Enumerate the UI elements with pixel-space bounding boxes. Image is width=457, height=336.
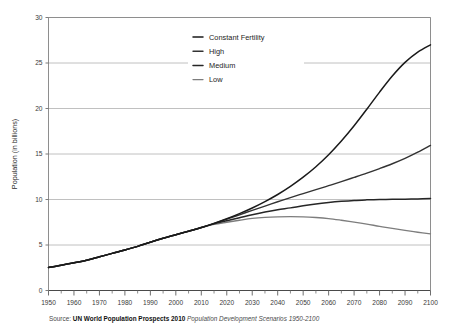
series-line [49,199,431,268]
chart-plot-area: 051015202530Population (in billions)1950… [0,0,457,336]
source-subtitle: Population Development Scenarios 1950-21… [185,315,319,322]
legend-item-label: Low [209,75,223,84]
chart-source-note: Source: UN World Population Prospects 20… [49,314,319,323]
x-axis-tick-label: 2010 [194,299,209,306]
x-axis-tick-label: 2050 [296,299,311,306]
x-axis-tick-label: 1990 [143,299,158,306]
legend-item-label: Medium [209,61,235,70]
y-axis-tick-label: 15 [35,150,43,157]
series-line [49,145,431,267]
population-projection-chart: 051015202530Population (in billions)1950… [0,0,457,336]
x-axis-tick-label: 2060 [321,299,336,306]
x-axis-tick-label: 2090 [398,299,413,306]
x-axis-tick-label: 2020 [219,299,234,306]
series-line [49,217,431,268]
x-axis-tick-label: 1970 [92,299,107,306]
x-axis-tick-label: 2030 [245,299,260,306]
x-axis-tick-label: 2070 [347,299,362,306]
y-axis-tick-label: 25 [35,59,43,66]
legend-item-label: High [209,47,224,56]
chart-legend: Constant FertilityHighMediumLow [188,26,304,88]
x-axis-tick-label: 2000 [168,299,183,306]
x-axis-tick-label: 2040 [270,299,285,306]
source-publication: UN World Population Prospects 2010 [73,315,185,322]
y-axis-title: Population (in billions) [10,119,19,189]
y-axis-tick-label: 30 [35,14,43,21]
source-prefix: Source: [49,315,73,322]
y-axis-tick-label: 20 [35,105,43,112]
x-axis-tick-label: 1950 [41,299,56,306]
x-axis-tick-label: 2100 [423,299,438,306]
legend-item-label: Constant Fertility [209,33,265,42]
y-axis: 051015202530 [35,14,48,294]
x-axis-tick-label: 1960 [67,299,82,306]
x-axis: 1950196019701980199020002010202020302040… [41,291,438,306]
y-axis-tick-label: 5 [39,241,43,248]
x-axis-tick-label: 1980 [118,299,133,306]
y-axis-tick-label: 10 [35,196,43,203]
x-axis-tick-label: 2080 [372,299,387,306]
y-axis-tick-label: 0 [39,287,43,294]
